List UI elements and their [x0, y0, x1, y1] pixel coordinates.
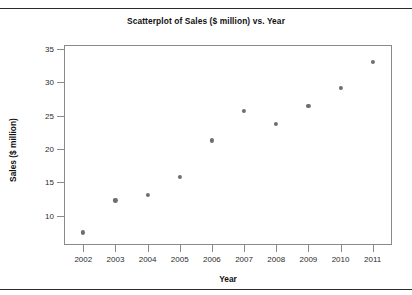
y-axis-title: Sales ($ million): [8, 90, 18, 210]
x-axis-tick: [212, 245, 213, 252]
scatter-plot-area: [64, 45, 392, 245]
bottom-divider-rule: [0, 289, 412, 290]
chart-title: Scatterplot of Sales ($ million) vs. Yea…: [0, 16, 412, 26]
data-point: [146, 193, 150, 197]
x-axis-tick: [148, 245, 149, 252]
y-axis-tick: [57, 216, 64, 217]
data-point: [338, 86, 342, 90]
x-axis-tick: [83, 245, 84, 252]
x-axis-tick: [373, 245, 374, 252]
chart-page: Scatterplot of Sales ($ million) vs. Yea…: [0, 0, 412, 295]
y-axis-tick: [57, 49, 64, 50]
y-axis-tick-label: 10: [8, 211, 54, 220]
data-point: [178, 175, 182, 179]
y-axis-tick-label: 35: [8, 45, 54, 54]
x-axis-tick: [308, 245, 309, 252]
x-axis-tick: [276, 245, 277, 252]
y-axis-tick: [57, 182, 64, 183]
y-axis-tick: [57, 116, 64, 117]
x-axis-tick: [115, 245, 116, 252]
data-point: [210, 138, 214, 142]
data-point: [113, 198, 117, 202]
y-axis-tick: [57, 149, 64, 150]
x-axis-tick: [341, 245, 342, 252]
x-axis-tick-label: 2011: [353, 255, 393, 264]
x-axis-tick: [244, 245, 245, 252]
data-point: [274, 122, 278, 126]
y-axis-tick: [57, 82, 64, 83]
data-point: [81, 230, 85, 234]
data-point: [371, 60, 375, 64]
x-axis-title: Year: [64, 274, 392, 284]
y-axis-tick-label: 30: [8, 78, 54, 87]
data-point: [306, 104, 310, 108]
top-divider-rule: [0, 8, 412, 9]
x-axis-tick: [180, 245, 181, 252]
data-point: [242, 109, 246, 113]
